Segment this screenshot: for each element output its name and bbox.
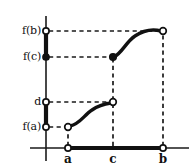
y-tick-label-fb: f(b): [0, 25, 41, 36]
y-tick-label-fc: f(c): [0, 51, 41, 62]
x-tick-label-c: c: [103, 153, 123, 165]
figure-root: f(b) f(c) d f(a) a c b: [0, 0, 193, 168]
endpoint-c-d: [110, 99, 117, 106]
x-tick-label-b: b: [153, 153, 173, 165]
y-tick-label-d: d: [0, 96, 41, 107]
y-marker-fc: [43, 54, 49, 60]
function-curves-group: [70, 30, 161, 126]
y-marker-d: [43, 99, 49, 105]
highlight-segments-group: [46, 31, 163, 148]
x-tick-label-a: a: [58, 153, 78, 165]
curve-endpoint-markers-group: [65, 28, 167, 131]
endpoint-b-fb: [160, 28, 167, 35]
y-marker-fb: [43, 28, 49, 34]
x-marker-a: [65, 145, 71, 151]
y-marker-fa: [43, 124, 49, 130]
y-tick-label-fa: f(a): [0, 121, 41, 132]
axes-group: [30, 16, 189, 161]
curve-branch-left: [70, 103, 111, 126]
endpoint-a-fa: [65, 124, 72, 131]
x-marker-b: [160, 145, 166, 151]
curve-branch-right: [114, 30, 161, 57]
endpoint-c-fc: [110, 54, 117, 61]
